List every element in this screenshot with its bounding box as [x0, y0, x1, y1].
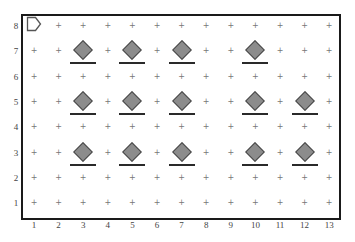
- empty-cell-marker: +: [104, 47, 111, 55]
- empty-cell-marker: +: [227, 174, 234, 182]
- empty-cell-marker: +: [203, 73, 210, 81]
- empty-cell-marker: +: [326, 98, 333, 106]
- empty-cell-marker: +: [203, 174, 210, 182]
- empty-cell-marker: +: [227, 149, 234, 157]
- y-tick-label: 1: [14, 198, 19, 208]
- underline-bar: [119, 113, 145, 115]
- empty-cell-marker: +: [154, 174, 161, 182]
- empty-cell-marker: +: [129, 123, 136, 131]
- x-tick-label: 6: [155, 220, 160, 230]
- empty-cell-marker: +: [277, 22, 284, 30]
- empty-cell-marker: +: [55, 174, 62, 182]
- empty-cell-marker: +: [154, 73, 161, 81]
- empty-cell-marker: +: [326, 123, 333, 131]
- empty-cell-marker: +: [104, 22, 111, 30]
- x-tick-label: 13: [325, 220, 334, 230]
- underline-bar: [242, 62, 268, 64]
- empty-cell-marker: +: [203, 149, 210, 157]
- underline-bar: [242, 113, 268, 115]
- empty-cell-marker: +: [31, 123, 38, 131]
- empty-cell-marker: +: [80, 22, 87, 30]
- empty-cell-marker: +: [277, 98, 284, 106]
- underline-bar: [70, 113, 96, 115]
- empty-cell-marker: +: [104, 123, 111, 131]
- empty-cell-marker: +: [227, 47, 234, 55]
- empty-cell-marker: +: [178, 123, 185, 131]
- y-tick-label: 2: [14, 173, 19, 183]
- empty-cell-marker: +: [301, 174, 308, 182]
- empty-cell-marker: +: [104, 149, 111, 157]
- empty-cell-marker: +: [227, 123, 234, 131]
- empty-cell-marker: +: [31, 149, 38, 157]
- empty-cell-marker: +: [154, 149, 161, 157]
- empty-cell-marker: +: [80, 123, 87, 131]
- underline-bar: [70, 62, 96, 64]
- empty-cell-marker: +: [301, 47, 308, 55]
- empty-cell-marker: +: [252, 73, 259, 81]
- empty-cell-marker: +: [277, 123, 284, 131]
- empty-cell-marker: +: [203, 47, 210, 55]
- empty-cell-marker: +: [154, 22, 161, 30]
- empty-cell-marker: +: [203, 98, 210, 106]
- x-tick-label: 11: [276, 220, 285, 230]
- empty-cell-marker: +: [104, 98, 111, 106]
- empty-cell-marker: +: [31, 199, 38, 207]
- empty-cell-marker: +: [227, 98, 234, 106]
- empty-cell-marker: +: [154, 98, 161, 106]
- underline-bar: [119, 62, 145, 64]
- underline-bar: [169, 62, 195, 64]
- empty-cell-marker: +: [55, 73, 62, 81]
- y-tick-label: 4: [14, 122, 19, 132]
- empty-cell-marker: +: [104, 174, 111, 182]
- empty-cell-marker: +: [252, 174, 259, 182]
- empty-cell-marker: +: [326, 47, 333, 55]
- empty-cell-marker: +: [129, 22, 136, 30]
- empty-cell-marker: +: [31, 47, 38, 55]
- empty-cell-marker: +: [178, 73, 185, 81]
- empty-cell-marker: +: [277, 73, 284, 81]
- y-tick-label: 5: [14, 97, 19, 107]
- empty-cell-marker: +: [80, 199, 87, 207]
- x-tick-label: 7: [179, 220, 184, 230]
- empty-cell-marker: +: [326, 73, 333, 81]
- empty-cell-marker: +: [277, 149, 284, 157]
- underline-bar: [169, 164, 195, 166]
- x-tick-label: 2: [56, 220, 61, 230]
- empty-cell-marker: +: [178, 174, 185, 182]
- empty-cell-marker: +: [301, 22, 308, 30]
- x-tick-label: 8: [204, 220, 209, 230]
- empty-cell-marker: +: [326, 199, 333, 207]
- empty-cell-marker: +: [104, 73, 111, 81]
- empty-cell-marker: +: [154, 199, 161, 207]
- empty-cell-marker: +: [326, 149, 333, 157]
- empty-cell-marker: +: [55, 123, 62, 131]
- empty-cell-marker: +: [252, 22, 259, 30]
- empty-cell-marker: +: [154, 47, 161, 55]
- empty-cell-marker: +: [203, 199, 210, 207]
- empty-cell-marker: +: [203, 123, 210, 131]
- empty-cell-marker: +: [154, 123, 161, 131]
- x-tick-label: 9: [229, 220, 234, 230]
- underline-bar: [292, 113, 318, 115]
- empty-cell-marker: +: [227, 199, 234, 207]
- y-tick-label: 8: [14, 21, 19, 31]
- empty-cell-marker: +: [80, 174, 87, 182]
- empty-cell-marker: +: [31, 73, 38, 81]
- empty-cell-marker: +: [277, 174, 284, 182]
- empty-cell-marker: +: [178, 199, 185, 207]
- empty-cell-marker: +: [55, 199, 62, 207]
- x-tick-label: 12: [300, 220, 309, 230]
- underline-bar: [242, 164, 268, 166]
- empty-cell-marker: +: [326, 174, 333, 182]
- empty-cell-marker: +: [55, 149, 62, 157]
- empty-cell-marker: +: [55, 22, 62, 30]
- empty-cell-marker: +: [104, 199, 111, 207]
- underline-bar: [70, 164, 96, 166]
- empty-cell-marker: +: [55, 47, 62, 55]
- y-tick-label: 7: [14, 46, 19, 56]
- empty-cell-marker: +: [277, 199, 284, 207]
- empty-cell-marker: +: [80, 73, 87, 81]
- empty-cell-marker: +: [129, 199, 136, 207]
- empty-cell-marker: +: [129, 73, 136, 81]
- empty-cell-marker: +: [227, 22, 234, 30]
